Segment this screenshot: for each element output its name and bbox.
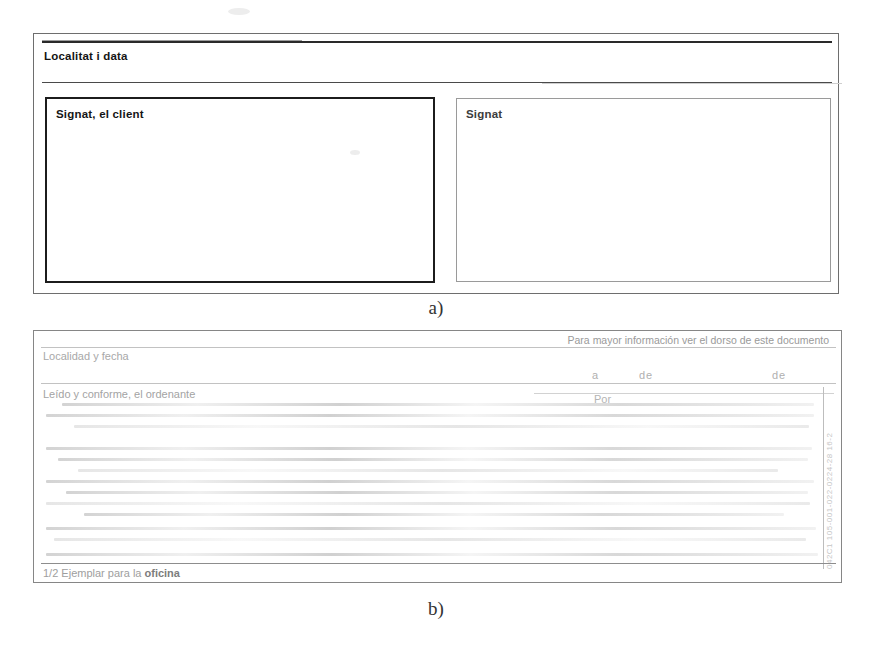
signature-box-plain[interactable]: Signat — [456, 98, 831, 282]
footer-copy-label: 1/2 Ejemplar para la oficina — [43, 567, 180, 579]
date-word-a: a — [592, 369, 599, 381]
panel-a-middle-rule — [42, 82, 832, 83]
date-word-de-1: de — [639, 369, 653, 381]
panel-b-footer-rule — [41, 563, 836, 564]
footer-copy-text: 1/2 Ejemplar para la — [43, 567, 145, 579]
scan-speck — [350, 150, 360, 155]
panel-b-form-spanish: Para mayor información ver el dorso de e… — [33, 330, 842, 583]
faded-body-text-block — [44, 403, 834, 558]
scan-speck — [228, 8, 250, 15]
field-label-localitat-i-data: Localitat i data — [44, 50, 128, 62]
note-see-reverse: Para mayor información ver el dorso de e… — [568, 334, 829, 346]
side-reference-code: 042C1 105-001-022-0224-28 16-2 — [825, 389, 839, 569]
caption-b: b) — [0, 598, 872, 620]
panel-b-rule-3 — [534, 393, 834, 394]
panel-b-rule-1 — [41, 347, 836, 348]
signature-box-client-label: Signat, el client — [56, 108, 144, 120]
field-label-localidad-y-fecha: Localidad y fecha — [43, 350, 129, 362]
panel-a-top-rule — [42, 41, 832, 43]
panel-a-form-catalan: Localitat i data Signat, el client Signa… — [33, 33, 839, 294]
caption-a: a) — [0, 297, 872, 319]
signature-box-plain-label: Signat — [466, 108, 502, 120]
figure-root: Localitat i data Signat, el client Signa… — [0, 0, 872, 657]
footer-copy-recipient: oficina — [145, 567, 180, 579]
field-label-leido-y-conforme: Leído y conforme, el ordenante — [43, 388, 195, 400]
panel-b-rule-2 — [41, 383, 836, 384]
panel-b-side-rule — [823, 387, 824, 569]
date-word-de-2: de — [772, 369, 786, 381]
signature-box-client[interactable]: Signat, el client — [45, 97, 435, 283]
